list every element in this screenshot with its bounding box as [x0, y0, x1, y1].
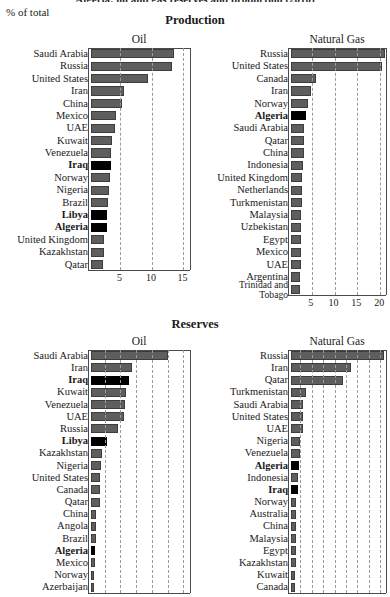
- category-label: Indonesia: [196, 160, 291, 171]
- bar-row: Angola: [2, 521, 190, 533]
- bar-cell: [91, 545, 193, 557]
- bar-cell: [291, 283, 389, 295]
- x-tick-label: 15: [351, 297, 361, 308]
- bar: [291, 534, 296, 543]
- bar-row: Qatar: [2, 496, 190, 508]
- bar: [291, 498, 296, 507]
- bar-cell: [91, 197, 193, 209]
- bar: [291, 376, 343, 385]
- bar-cell: [91, 73, 193, 85]
- bar-cell: [91, 521, 193, 533]
- bar-cell: [291, 110, 389, 122]
- bar-cell: [91, 557, 193, 569]
- bar-row: United States: [2, 73, 190, 85]
- x-axis-tick-labels-gas-production: 5101520: [288, 297, 386, 309]
- bar-cell: [91, 362, 193, 374]
- bar-row: Russia: [196, 48, 386, 60]
- bar-cell: [291, 259, 389, 271]
- bar: [91, 86, 124, 95]
- category-label: Saudi Arabia: [196, 123, 291, 134]
- category-label: Venezuela: [2, 400, 91, 411]
- bar-row: United Kingdom: [196, 172, 386, 184]
- bar-row: China: [196, 147, 386, 159]
- bar-cell: [91, 374, 193, 386]
- category-label: United Kingdom: [196, 173, 291, 184]
- bar: [291, 363, 351, 372]
- bar-rows: Saudi ArabiaIranIraqKuwaitVenezuelaUAERu…: [2, 350, 190, 594]
- category-label: Libya: [2, 436, 91, 447]
- category-label: Iraq: [2, 375, 91, 386]
- bar-row: Kazakhstan: [2, 246, 190, 258]
- bar-row: Saudi Arabia: [2, 350, 190, 362]
- category-label: Norway: [2, 570, 91, 581]
- bar: [291, 473, 298, 482]
- category-label: Iran: [196, 363, 291, 374]
- category-label: Netherlands: [196, 185, 291, 196]
- bar: [91, 363, 132, 372]
- bar: [91, 412, 124, 421]
- bar-row: UAE: [2, 122, 190, 134]
- bar-cell: [91, 110, 193, 122]
- category-label: Mexico: [2, 558, 91, 569]
- bar: [291, 571, 295, 580]
- bar-row: Venezuela: [196, 448, 386, 460]
- bar: [291, 424, 303, 433]
- bar-cell: [91, 435, 193, 447]
- bar: [291, 546, 296, 555]
- bar-cell: [291, 98, 389, 110]
- bar: [91, 376, 129, 385]
- category-label: Iran: [196, 86, 291, 97]
- bar-cell: [91, 259, 193, 271]
- bar-row: Kuwait: [196, 569, 386, 581]
- bar-row: Iraq: [2, 160, 190, 172]
- category-label: China: [2, 99, 91, 110]
- category-label: Turkmenistan: [196, 387, 291, 398]
- bar: [91, 424, 118, 433]
- bar: [91, 498, 100, 507]
- bar: [291, 74, 316, 83]
- category-label: Algeria: [2, 222, 91, 233]
- bar-row: UAE: [196, 259, 386, 271]
- bar-row: Uzbekistan: [196, 221, 386, 233]
- bar-row: Mexico: [2, 110, 190, 122]
- bar-row: China: [2, 508, 190, 520]
- bar: [91, 400, 125, 409]
- bar-cell: [91, 172, 193, 184]
- panel-title-gas-reserves: Natural Gas: [288, 335, 386, 347]
- bar-row: Netherlands: [196, 184, 386, 196]
- bar: [91, 210, 107, 219]
- bar: [291, 285, 300, 294]
- bar-row: Saudi Arabia: [196, 399, 386, 411]
- bar: [91, 571, 94, 580]
- bar: [91, 522, 96, 531]
- bar: [291, 124, 304, 133]
- category-label: Kuwait: [2, 136, 91, 147]
- category-label: UAE: [196, 424, 291, 435]
- bar-cell: [291, 533, 389, 545]
- bar: [291, 449, 300, 458]
- bar-row: Indonesia: [196, 472, 386, 484]
- bar: [291, 223, 301, 232]
- bar-row: Algeria: [2, 221, 190, 233]
- bar-cell: [291, 246, 389, 258]
- bar: [291, 173, 302, 182]
- category-label: China: [196, 148, 291, 159]
- bar: [291, 210, 301, 219]
- category-label: Canada: [2, 485, 91, 496]
- category-label: Algeria: [196, 461, 291, 472]
- bar-cell: [91, 246, 193, 258]
- bar-row: Iraq: [196, 484, 386, 496]
- category-label: China: [196, 521, 291, 532]
- category-label: China: [2, 509, 91, 520]
- bar: [291, 49, 385, 58]
- bar: [91, 534, 96, 543]
- bar-row: Iraq: [2, 374, 190, 386]
- bar-row: Indonesia: [196, 160, 386, 172]
- bar-cell: [291, 545, 389, 557]
- category-label: Saudi Arabia: [2, 49, 91, 60]
- bar-rows: RussiaUnited StatesCanadaIranNorwayAlger…: [196, 48, 386, 296]
- bar-row: China: [2, 98, 190, 110]
- category-label: Saudi Arabia: [196, 400, 291, 411]
- bar-row: Libya: [2, 435, 190, 447]
- bar-cell: [91, 569, 193, 581]
